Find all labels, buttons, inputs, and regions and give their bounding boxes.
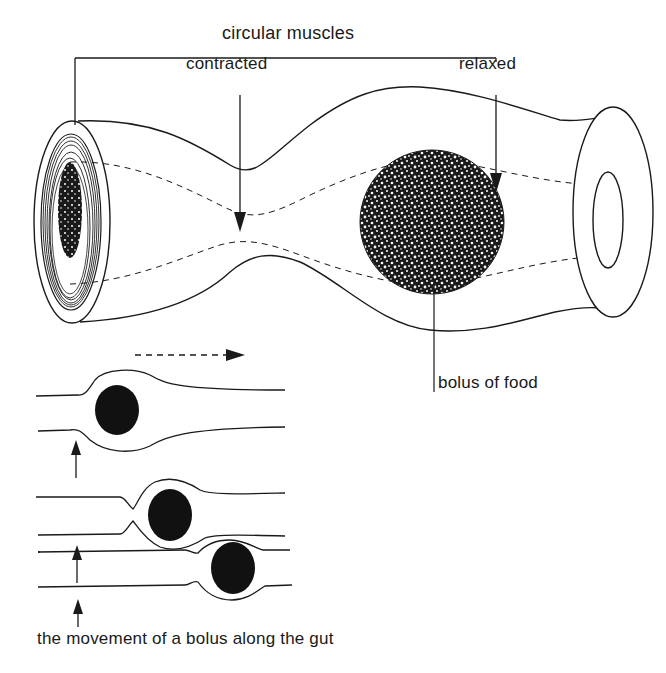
- contracted-arrow: [234, 95, 246, 232]
- sequence-panel-2: [36, 479, 285, 549]
- left-cross-section: [34, 121, 110, 323]
- lumen-left: [58, 162, 82, 258]
- label-contracted: contracted: [186, 55, 267, 72]
- stage-arrow-3: [73, 599, 83, 627]
- stage-arrow-1: [71, 440, 81, 478]
- label-relaxed: relaxed: [459, 55, 516, 72]
- right-cross-section: [573, 107, 653, 317]
- caption: the movement of a bolus along the gut: [37, 630, 334, 647]
- direction-arrow: [135, 349, 245, 361]
- lumen-outline: [70, 160, 605, 285]
- stage-arrow-2: [72, 545, 82, 583]
- gut-tube: [78, 87, 605, 397]
- circular-muscles-bracket: [75, 58, 496, 125]
- label-circular-muscles: circular muscles: [222, 24, 354, 42]
- relaxed-arrow: [490, 95, 502, 193]
- label-bolus-of-food: bolus of food: [438, 374, 538, 391]
- sequence-panel-1: [36, 370, 285, 451]
- bolus-of-food: [360, 150, 504, 294]
- gut-diagram: [0, 0, 666, 673]
